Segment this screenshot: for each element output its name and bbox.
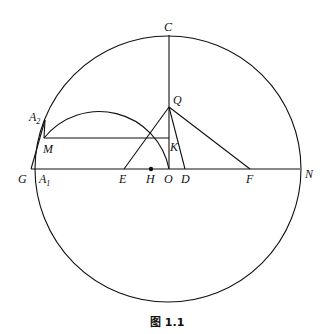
label-C: C bbox=[164, 20, 173, 34]
figure-caption: 图 1.1 bbox=[150, 316, 184, 329]
line-QF bbox=[169, 107, 250, 169]
label-F: F bbox=[245, 172, 254, 186]
line-QD bbox=[169, 107, 185, 169]
label-G: G bbox=[18, 172, 27, 186]
point-H bbox=[149, 167, 153, 171]
label-N: N bbox=[304, 167, 314, 181]
label-A2: A2 bbox=[28, 110, 40, 126]
label-O: O bbox=[164, 172, 173, 186]
label-H: H bbox=[145, 172, 156, 186]
geometry-diagram: C Q A2 M K G A1 E H O D F N 图 1.1 bbox=[0, 0, 325, 334]
label-E: E bbox=[118, 172, 127, 186]
label-A1: A1 bbox=[38, 172, 50, 188]
label-K: K bbox=[169, 140, 179, 154]
label-D: D bbox=[180, 172, 190, 186]
label-Q: Q bbox=[173, 93, 182, 107]
label-M: M bbox=[42, 142, 54, 156]
inner-arc bbox=[44, 112, 169, 169]
